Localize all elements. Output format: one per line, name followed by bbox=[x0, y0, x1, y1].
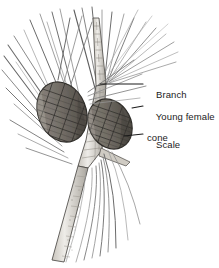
pine-branch-figure: Branch Young female cone Scale bbox=[0, 0, 219, 268]
label-scale: Scale bbox=[145, 129, 180, 161]
label-young-female-cone-text-line1: Young female bbox=[156, 111, 215, 122]
label-branch-text: Branch bbox=[156, 89, 187, 100]
label-scale-text: Scale bbox=[156, 139, 180, 150]
